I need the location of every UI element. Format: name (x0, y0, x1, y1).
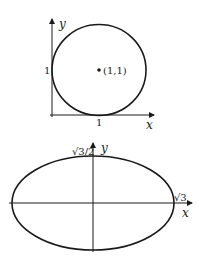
y-tick-label: 1 (44, 65, 50, 76)
y-axis-label: y (58, 17, 66, 31)
y-axis-label: y (100, 141, 108, 155)
center-point (97, 68, 101, 72)
center-label: (1,1) (103, 65, 127, 76)
x-tick-label: 1 (96, 117, 102, 128)
x-tick-label: √3 (174, 192, 187, 203)
x-axis-label: x (146, 118, 153, 132)
circle-figure: (1,1) 1 1 y x (44, 17, 154, 132)
diagram-canvas: (1,1) 1 1 y x √3/2 y √3 x (0, 0, 200, 263)
ellipse-figure: √3/2 y √3 x (9, 141, 192, 252)
y-tick-label: √3/2 (72, 146, 94, 157)
x-axis-label: x (182, 206, 189, 220)
